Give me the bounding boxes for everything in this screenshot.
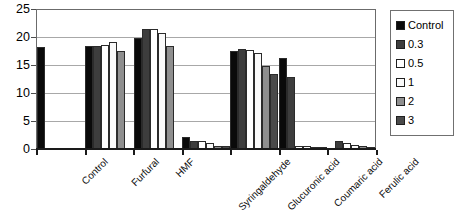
y-tick-label: 15 <box>16 59 30 72</box>
x-tick-mark <box>279 150 281 155</box>
bar-groups <box>37 10 375 148</box>
bar-group <box>230 10 278 148</box>
x-tick-mark <box>327 150 329 155</box>
legend-item-label: 2 <box>408 96 414 107</box>
bar <box>270 74 278 148</box>
x-tick-mark <box>85 150 87 155</box>
legend-item-label: 0.3 <box>408 39 423 50</box>
bar <box>238 49 246 148</box>
legend-item[interactable]: Control <box>396 16 449 35</box>
bar <box>230 51 238 148</box>
y-axis: 0510152025 <box>0 9 30 149</box>
bar <box>190 141 198 148</box>
legend-item[interactable]: 3 <box>396 111 449 130</box>
y-tick-label: 25 <box>16 3 30 16</box>
legend-item[interactable]: 0.5 <box>396 54 449 73</box>
bar <box>198 141 206 148</box>
bar-group <box>134 10 182 148</box>
plot-area <box>36 9 376 149</box>
x-tick-mark <box>230 150 232 155</box>
x-axis-labels: ControlFurfuralHMFSyringaldehydeGlucuron… <box>36 156 376 223</box>
bar <box>134 38 142 148</box>
bar-group <box>278 10 326 148</box>
bar <box>287 77 295 148</box>
legend-swatch-icon <box>396 97 405 106</box>
bar <box>158 33 166 148</box>
bar <box>150 29 158 148</box>
legend-swatch-icon <box>396 116 405 125</box>
legend-item-label: 3 <box>408 115 414 126</box>
bar <box>279 58 287 148</box>
x-tick-mark <box>36 150 38 155</box>
bar-group <box>37 10 85 148</box>
bar <box>142 29 150 148</box>
legend-item-label: 0.5 <box>408 58 423 69</box>
legend-item[interactable]: 1 <box>396 73 449 92</box>
bar-group <box>182 10 230 148</box>
x-tick-label: Control <box>79 156 110 187</box>
legend-item-label: Control <box>408 20 443 31</box>
bar <box>85 46 93 148</box>
legend-item-label: 1 <box>408 77 414 88</box>
bar <box>109 42 117 148</box>
x-tick-label: HMF <box>173 156 196 179</box>
x-tick-label: Glucuronic acid <box>285 156 342 213</box>
bar <box>93 46 101 148</box>
legend: Control0.30.5123 <box>390 10 454 136</box>
x-tick-mark <box>376 150 378 155</box>
legend-swatch-icon <box>396 78 405 87</box>
bar <box>166 46 174 148</box>
y-tick-label: 0 <box>23 143 30 156</box>
bar <box>254 53 262 148</box>
y-tick-label: 20 <box>16 31 30 44</box>
bar <box>37 47 45 148</box>
bar <box>101 45 109 148</box>
y-tick-label: 5 <box>23 115 30 128</box>
legend-item[interactable]: 2 <box>396 92 449 111</box>
legend-swatch-icon <box>396 40 405 49</box>
x-tick-mark <box>133 150 135 155</box>
bar <box>262 66 270 148</box>
legend-item[interactable]: 0.3 <box>396 35 449 54</box>
legend-swatch-icon <box>396 21 405 30</box>
bar-group <box>85 10 133 148</box>
bar-chart: 0510152025 ControlFurfuralHMFSyringaldeh… <box>0 0 460 223</box>
bar <box>182 137 190 148</box>
x-tick-mark <box>182 150 184 155</box>
x-tick-label: Furfural <box>129 156 161 188</box>
bar <box>117 51 125 148</box>
bar <box>335 141 343 148</box>
y-tick-label: 10 <box>16 87 30 100</box>
bar-group <box>327 10 375 148</box>
bar <box>246 50 254 148</box>
legend-swatch-icon <box>396 59 405 68</box>
